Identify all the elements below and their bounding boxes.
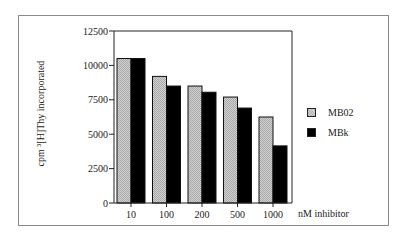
y-tick-label: 10000 bbox=[83, 60, 108, 71]
legend-swatch-black bbox=[307, 128, 316, 137]
x-tick-label: 10 bbox=[126, 209, 136, 220]
legend-label: MB02 bbox=[328, 107, 354, 118]
legend-swatch-gray bbox=[307, 108, 316, 117]
bar-mb02-100 bbox=[153, 76, 167, 203]
y-axis-label: cpm ³[H]Thy incorporated bbox=[35, 49, 46, 179]
bar-mbk-1000 bbox=[273, 146, 287, 203]
y-tick-label: 0 bbox=[103, 198, 108, 209]
bar-mbk-10 bbox=[131, 59, 145, 203]
legend-item-mb02: MB02 bbox=[307, 102, 354, 122]
x-tick-label: 200 bbox=[195, 209, 210, 220]
y-tick-label: 5000 bbox=[88, 129, 108, 140]
bar-mb02-200 bbox=[188, 86, 202, 203]
x-tick-label: 500 bbox=[230, 209, 245, 220]
x-tick-label: 1000 bbox=[263, 209, 283, 220]
bar-mb02-500 bbox=[224, 97, 238, 203]
legend-label: MBk bbox=[328, 127, 349, 138]
legend-item-mbk: MBk bbox=[307, 122, 354, 142]
bar-mb02-10 bbox=[117, 59, 131, 203]
legend: MB02 MBk bbox=[307, 102, 354, 142]
x-axis-label: nM inhibitor bbox=[298, 208, 349, 219]
bar-mbk-100 bbox=[167, 86, 181, 203]
x-tick-label: 100 bbox=[159, 209, 174, 220]
bar-mb02-1000 bbox=[259, 117, 273, 203]
y-tick-label: 2500 bbox=[88, 163, 108, 174]
y-tick-label: 7500 bbox=[88, 94, 108, 105]
bar-mbk-200 bbox=[202, 92, 216, 203]
bar-mbk-500 bbox=[238, 108, 252, 203]
y-tick-label: 12500 bbox=[83, 26, 108, 37]
